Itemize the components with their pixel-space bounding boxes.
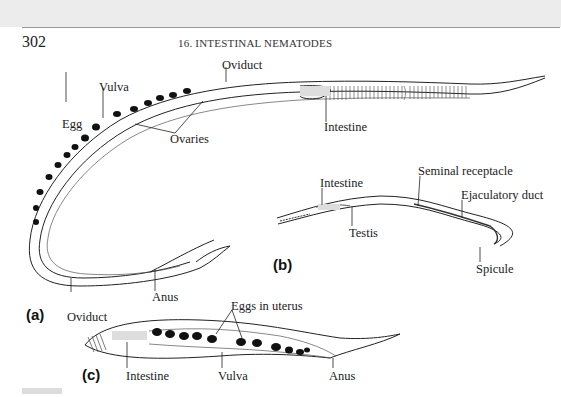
label-oviduct-bottom: Oviduct <box>67 310 107 325</box>
label-spicule: Spicule <box>476 262 514 277</box>
caption-start-mark <box>22 388 62 394</box>
label-eggs-in-uterus: Eggs in uterus <box>231 299 303 314</box>
label-seminal-receptacle: Seminal receptacle <box>418 164 513 179</box>
panel-label-b: (b) <box>273 256 292 273</box>
eggs-a <box>33 88 191 225</box>
label-egg: Egg <box>62 117 82 132</box>
label-intestine-c: Intestine <box>126 369 169 384</box>
label-intestine-b: Intestine <box>320 176 363 191</box>
label-testis: Testis <box>349 226 378 241</box>
male-worm-b <box>277 196 513 246</box>
eggs-c <box>152 328 310 355</box>
panel-label-c: (c) <box>82 366 100 383</box>
label-ovaries: Ovaries <box>170 132 209 147</box>
female-worm-a <box>29 76 545 286</box>
label-vulva-c: Vulva <box>218 369 248 384</box>
label-oviduct-top: Oviduct <box>222 58 262 73</box>
label-intestine-a: Intestine <box>324 120 367 135</box>
label-ejaculatory-duct: Ejaculatory duct <box>461 188 543 203</box>
panel-label-a: (a) <box>26 306 44 323</box>
label-anus-a: Anus <box>152 290 178 305</box>
label-vulva-a: Vulva <box>99 80 129 95</box>
label-anus-c: Anus <box>329 369 355 384</box>
